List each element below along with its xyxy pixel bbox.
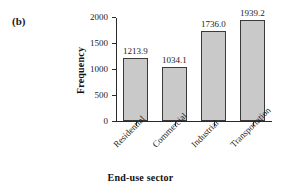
plot-area: 0500100015002000 1213.91034.11736.01939.…: [96, 18, 272, 122]
y-tick-label: 1000: [74, 65, 112, 74]
bar: [240, 20, 265, 121]
y-tick-mark: [112, 17, 116, 18]
y-tick-label: 500: [74, 91, 112, 100]
bar-value-label: 1213.9: [123, 47, 148, 56]
y-tick-label: 0: [74, 117, 112, 126]
bar: [201, 31, 226, 121]
bar-value-label: 1736.0: [201, 20, 226, 29]
x-axis-title: End-use sector: [0, 172, 281, 183]
y-tick-mark: [112, 121, 116, 122]
y-tick-mark: [112, 95, 116, 96]
bar-value-label: 1034.1: [162, 56, 187, 65]
figure-panel-b: (b) Frequency 0500100015002000 1213.9103…: [0, 0, 281, 191]
panel-label: (b): [12, 15, 25, 27]
y-tick-mark: [112, 43, 116, 44]
y-tick-label: 1500: [74, 39, 112, 48]
y-axis-line: [116, 18, 117, 122]
x-category-label: Industrial: [190, 119, 221, 150]
y-tick-mark: [112, 69, 116, 70]
bar: [123, 58, 148, 121]
y-tick-label: 2000: [74, 13, 112, 22]
bar-value-label: 1939.2: [240, 9, 265, 18]
